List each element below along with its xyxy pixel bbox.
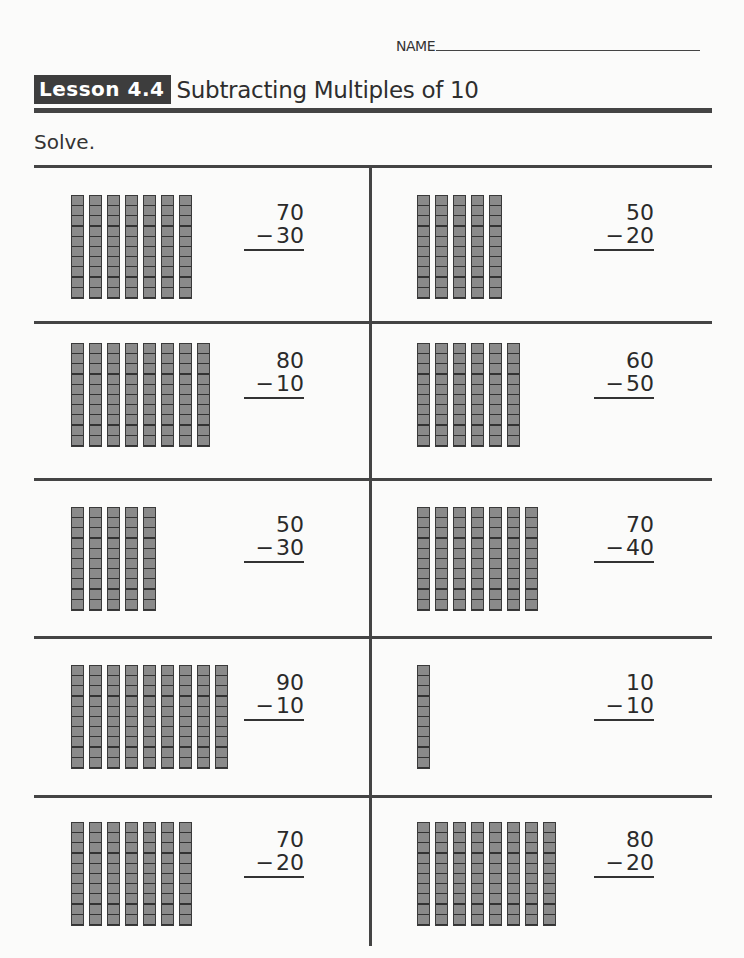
tens-rod-icon [453, 507, 466, 611]
subtraction-problem: 50−20 [594, 201, 654, 251]
tens-rod-icon [507, 822, 520, 926]
tens-rod-icon [435, 822, 448, 926]
tens-rods [417, 507, 538, 611]
subtrahend[interactable]: −20 [594, 224, 654, 251]
subtrahend[interactable]: −50 [594, 372, 654, 399]
minuend: 10 [594, 671, 654, 694]
tens-rod-icon [417, 822, 430, 926]
minuend: 60 [594, 349, 654, 372]
subtraction-problem: 10−10 [594, 671, 654, 721]
tens-rods [417, 195, 502, 299]
tens-rod-icon [525, 507, 538, 611]
minus-sign: − [606, 223, 624, 248]
tens-rod-icon [453, 343, 466, 447]
minus-sign: − [606, 850, 624, 875]
minuend: 50 [594, 201, 654, 224]
subtrahend-value: 10 [626, 693, 654, 718]
subtrahend[interactable]: −10 [594, 694, 654, 721]
tens-rod-icon [507, 507, 520, 611]
subtraction-problem: 60−50 [594, 349, 654, 399]
tens-rod-icon [471, 195, 484, 299]
subtrahend-value: 20 [626, 850, 654, 875]
minus-sign: − [606, 693, 624, 718]
subtrahend[interactable]: −40 [594, 536, 654, 563]
tens-rod-icon [471, 343, 484, 447]
tens-rods [417, 665, 430, 769]
problem-6: 70−40 [0, 507, 744, 657]
name-label: NAME [396, 38, 435, 54]
problem-8: 10−10 [0, 665, 744, 815]
lesson-title: Subtracting Multiples of 10 [177, 77, 479, 103]
problem-10: 80−20 [0, 822, 744, 958]
tens-rod-icon [489, 343, 502, 447]
tens-rod-icon [453, 822, 466, 926]
tens-rod-icon [453, 195, 466, 299]
tens-rod-icon [417, 343, 430, 447]
tens-rod-icon [435, 343, 448, 447]
problem-2: 50−20 [0, 195, 744, 345]
tens-rod-icon [525, 822, 538, 926]
minuend: 80 [594, 828, 654, 851]
tens-rod-icon [543, 822, 556, 926]
subtraction-problem: 70−40 [594, 513, 654, 563]
tens-rod-icon [507, 343, 520, 447]
subtraction-problem: 80−20 [594, 828, 654, 878]
subtrahend[interactable]: −20 [594, 851, 654, 878]
tens-rod-icon [489, 507, 502, 611]
tens-rods [417, 343, 520, 447]
instruction: Solve. [34, 130, 95, 154]
lesson-badge: Lesson 4.4 [34, 75, 171, 104]
tens-rod-icon [435, 195, 448, 299]
tens-rod-icon [471, 822, 484, 926]
name-line[interactable] [436, 49, 700, 51]
title-rule [34, 108, 712, 113]
tens-rods [417, 822, 556, 926]
tens-rod-icon [489, 195, 502, 299]
minus-sign: − [606, 535, 624, 560]
subtrahend-value: 40 [626, 535, 654, 560]
tens-rod-icon [435, 507, 448, 611]
minus-sign: − [606, 371, 624, 396]
tens-rod-icon [489, 822, 502, 926]
tens-rod-icon [417, 665, 430, 769]
lesson-header: Lesson 4.4 Subtracting Multiples of 10 [34, 75, 479, 104]
minuend: 70 [594, 513, 654, 536]
name-field[interactable]: NAME [396, 38, 700, 54]
tens-rod-icon [471, 507, 484, 611]
subtrahend-value: 50 [626, 371, 654, 396]
divider-rule [34, 165, 712, 168]
problem-4: 60−50 [0, 343, 744, 493]
tens-rod-icon [417, 507, 430, 611]
tens-rod-icon [417, 195, 430, 299]
subtrahend-value: 20 [626, 223, 654, 248]
